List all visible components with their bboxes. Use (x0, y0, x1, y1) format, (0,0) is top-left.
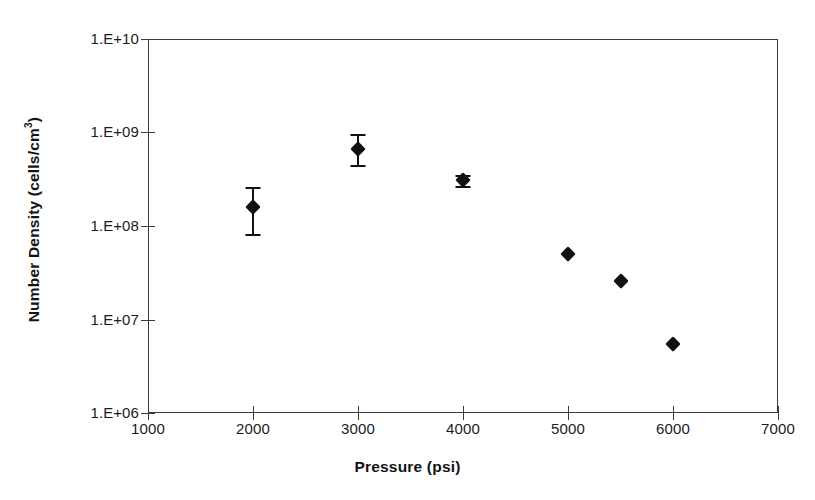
y-tick-mark-1e09 (141, 132, 155, 133)
x-tick-label-4000: 4000 (418, 420, 508, 437)
y-axis-title-exponent: 3 (23, 122, 34, 128)
x-tick-mark-3000 (358, 406, 359, 420)
scatter-chart: 1.E+10 1.E+09 1.E+08 1.E+07 1.E+06 1000 … (0, 0, 815, 500)
x-axis-title: Pressure (psi) (0, 458, 815, 476)
plot-area (148, 39, 778, 413)
x-tick-label-3000: 3000 (313, 420, 403, 437)
x-tick-mark-6000 (673, 406, 674, 420)
x-tick-mark-4000 (463, 406, 464, 420)
y-tick-label-1e10: 1.E+10 (19, 30, 139, 47)
y-tick-mark-1e07 (141, 320, 155, 321)
x-tick-label-5000: 5000 (523, 420, 613, 437)
y-axis-title-base: Number Density (cells/cm (25, 128, 42, 322)
x-tick-label-1000: 1000 (103, 420, 193, 437)
y-tick-label-1e06: 1.E+06 (19, 404, 139, 421)
x-tick-mark-2000 (253, 406, 254, 420)
x-tick-mark-1000 (148, 406, 149, 420)
x-tick-label-7000: 7000 (733, 420, 815, 437)
y-axis-title-tail: ) (25, 117, 42, 122)
x-tick-label-2000: 2000 (208, 420, 298, 437)
x-tick-mark-5000 (568, 406, 569, 420)
y-tick-mark-1e10 (141, 39, 155, 40)
x-tick-mark-7000 (778, 406, 779, 420)
x-tick-label-6000: 6000 (628, 420, 718, 437)
y-axis-title: Number Density (cells/cm3) (23, 55, 42, 385)
y-tick-mark-1e08 (141, 226, 155, 227)
